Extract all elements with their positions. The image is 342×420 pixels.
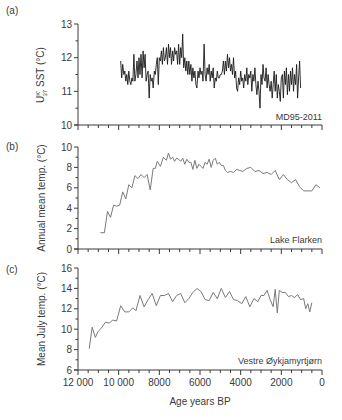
y-tick-label: 8 [66, 162, 72, 173]
y-tick-label: 10 [61, 120, 73, 131]
series-line-vestre-oykjamyrtjorn [89, 288, 312, 348]
x-tick-label: 4000 [230, 377, 253, 388]
x-tick-label: 0 [319, 377, 325, 388]
x-axis-label: Age years BP [169, 396, 230, 407]
y-tick-label: 16 [61, 263, 73, 274]
x-tick-label: 12 000 [63, 377, 94, 388]
y-tick-label: 0 [66, 244, 72, 255]
y-tick-label: 6 [66, 365, 72, 376]
y-tick-label: 11 [62, 86, 73, 97]
panel-c: (c) Mean July temp. (°C) 6810121416 Vest… [6, 263, 322, 376]
x-tick-label: 10 000 [103, 377, 134, 388]
chart-canvas: (a) UK'37 SST (°C) 10111213 MD95-2011 (b… [0, 0, 342, 420]
record-label-b: Lake Flarken [270, 235, 322, 245]
y-tick-label: 13 [61, 19, 73, 30]
y-axis-label-a: UK'37 SST (°C) [35, 47, 48, 103]
ylabel-a-sup: K' [35, 91, 41, 96]
panel-a: (a) UK'37 SST (°C) 10111213 MD95-2011 [6, 5, 322, 131]
panel-label-c: (c) [6, 264, 18, 275]
series-line-md95-2011 [121, 34, 301, 108]
panel-label-b: (b) [6, 141, 18, 152]
x-tick-label: 6000 [189, 377, 212, 388]
y-tick-label: 14 [61, 283, 73, 294]
panel-b: (b) Annual mean temp. (°C) 0246810 Lake … [6, 141, 322, 255]
y-axis-label-b: Annual mean temp. (°C) [36, 144, 47, 251]
y-tick-label: 6 [66, 182, 72, 193]
y-tick-label: 2 [66, 223, 72, 234]
series-line-lake-flarken [100, 153, 320, 233]
y-tick-label: 12 [61, 52, 73, 63]
y-tick-label: 12 [61, 303, 73, 314]
y-tick-label: 4 [66, 203, 72, 214]
record-label-c: Vestre Øykjamyrtjørn [238, 356, 322, 366]
y-tick-label: 10 [61, 142, 73, 153]
x-tick-label: 8000 [148, 377, 171, 388]
x-axis-tick-labels: 12 00010 00080006000400020000 [63, 377, 326, 388]
ylabel-a-rest: SST (°C) [35, 47, 46, 90]
y-tick-label: 8 [66, 344, 72, 355]
y-tick-label: 10 [61, 324, 73, 335]
record-label-a: MD95-2011 [276, 112, 322, 122]
panel-label-a: (a) [6, 5, 18, 16]
y-axis-label-c: Mean July temp. (°C) [36, 272, 47, 366]
x-tick-label: 2000 [270, 377, 293, 388]
figure: (a) UK'37 SST (°C) 10111213 MD95-2011 (b… [0, 0, 342, 420]
svg-text:UK'37 SST (°C): UK'37 SST (°C) [35, 47, 48, 103]
